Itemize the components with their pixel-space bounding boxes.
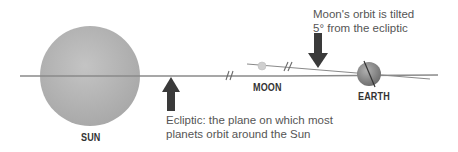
ecliptic-arrow: [162, 77, 180, 111]
moon-orbit-caption-line1: Moon's orbit is tilted: [313, 8, 414, 22]
ecliptic-caption-line2: planets orbit around the Sun: [166, 128, 333, 142]
sun-label: SUN: [81, 131, 101, 143]
moon-orbit-caption-line2: 5° from the ecliptic: [313, 22, 414, 36]
moon-orbit-caption: Moon's orbit is tilted 5° from the eclip…: [313, 8, 414, 35]
earth-label: EARTH: [358, 90, 390, 102]
ecliptic-caption: Ecliptic: the plane on which most planet…: [166, 114, 333, 141]
ecliptic-caption-line1: Ecliptic: the plane on which most: [166, 114, 333, 128]
moon-orbit-line: [247, 64, 430, 79]
moon: [258, 62, 266, 70]
moon-orbit-break-mark: [284, 62, 292, 71]
moon-label: MOON: [253, 81, 282, 93]
moon-orbit-arrow: [308, 33, 328, 68]
